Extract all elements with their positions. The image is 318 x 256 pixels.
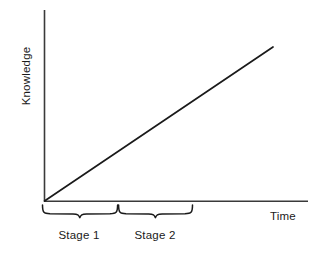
x-axis-label: Time <box>270 211 296 223</box>
data-line-knowledge-growth <box>45 47 274 201</box>
stage-brace-0 <box>43 205 118 218</box>
y-axis-label: Knowledge <box>21 11 33 141</box>
stage-1-label: Stage 1 <box>40 230 118 242</box>
stage-2-label: Stage 2 <box>116 230 194 242</box>
stage-brace-1 <box>119 205 193 218</box>
knowledge-over-time-chart: Knowledge Time Stage 1 Stage 2 <box>0 0 318 256</box>
